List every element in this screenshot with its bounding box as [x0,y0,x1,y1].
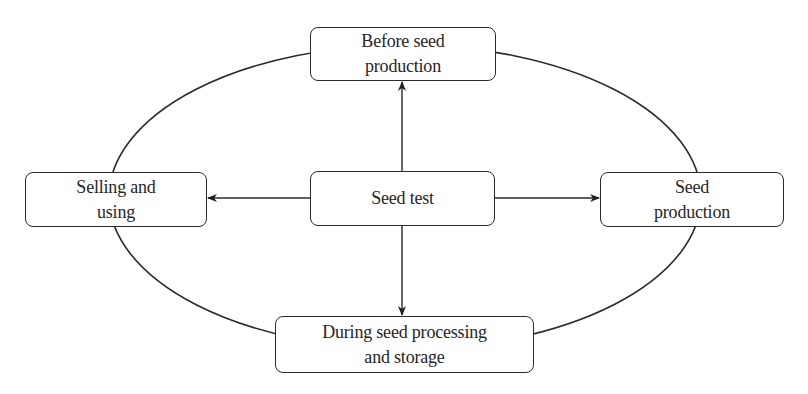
node-label-line: production [361,54,444,79]
node-label-line: production [654,200,730,225]
node-during-processing-and-storage: During seed processing and storage [275,316,534,373]
node-seed-production: Seed production [600,172,784,227]
hub-label: Seed test [371,186,434,211]
node-label-line: using [76,200,155,225]
node-label-line: During seed processing [322,320,487,345]
node-before-seed-production: Before seed production [310,27,496,81]
node-label-line: Seed [654,175,730,200]
node-seed-test-hub: Seed test [310,171,495,226]
node-label-line: and storage [322,345,487,370]
node-label-line: Before seed [361,29,444,54]
node-label-line: Selling and [76,175,155,200]
node-selling-and-using: Selling and using [25,172,207,227]
